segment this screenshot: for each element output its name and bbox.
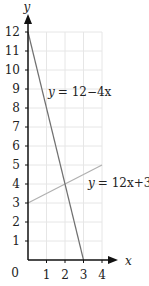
y-axis-arrow-icon [24,14,32,24]
svg-text:1: 1 [12,234,20,248]
svg-text:5: 5 [12,158,20,172]
svg-text:4: 4 [98,268,106,282]
svg-text:7: 7 [12,120,20,134]
svg-text:1: 1 [43,268,51,282]
svg-text:3: 3 [12,196,20,210]
svg-text:6: 6 [12,139,20,153]
svg-text:4: 4 [12,177,20,191]
svg-text:10: 10 [5,63,20,77]
svg-text:2: 2 [12,215,20,229]
svg-text:2: 2 [61,268,69,282]
svg-text:11: 11 [5,44,20,58]
axes [28,22,110,260]
series-label-2: y= 12x+3 [87,176,149,190]
origin-label: 0 [11,266,19,280]
series-label-1: y= 12−4x [47,85,112,99]
x-axis-label: x [125,254,132,268]
x-axis-arrow-icon [108,256,118,264]
line-chart: 1 2 3 4 5 6 7 8 9 10 11 12 1 2 3 4 0 y x… [0,0,149,286]
grid [28,32,102,260]
svg-text:8: 8 [12,101,20,115]
y-axis-label: y [23,0,31,14]
y-tick-labels: 1 2 3 4 5 6 7 8 9 10 11 12 [5,25,21,248]
svg-text:9: 9 [12,82,20,96]
x-tick-labels: 1 2 3 4 [43,268,107,282]
svg-text:12: 12 [5,25,20,39]
svg-text:3: 3 [80,268,88,282]
